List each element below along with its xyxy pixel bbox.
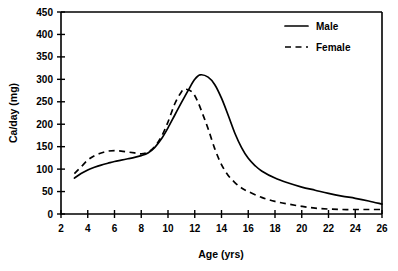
y-tick-label: 50	[42, 186, 54, 197]
y-tick-label: 250	[36, 96, 53, 107]
x-tick-label: 20	[296, 223, 308, 234]
y-tick-label: 150	[36, 141, 53, 152]
x-tick-label: 22	[323, 223, 335, 234]
y-tick-label: 0	[47, 209, 53, 220]
x-tick-label: 4	[85, 223, 91, 234]
chart-figure: 050100150200250300350400450 246810121416…	[0, 0, 398, 271]
y-tick-label: 450	[36, 7, 53, 18]
x-tick-label: 10	[162, 223, 174, 234]
x-axis-tick-labels: 2468101214161820222426	[58, 223, 388, 234]
y-tick-label: 100	[36, 164, 53, 175]
x-tick-label: 14	[216, 223, 228, 234]
x-tick-label: 2	[58, 223, 64, 234]
x-tick-label: 26	[376, 223, 388, 234]
x-tick-label: 8	[138, 223, 144, 234]
series-line-female	[74, 89, 382, 209]
x-tick-label: 18	[269, 223, 281, 234]
x-axis-title: Age (yrs)	[198, 248, 244, 260]
x-tick-label: 16	[243, 223, 255, 234]
chart-canvas: 050100150200250300350400450 246810121416…	[0, 0, 398, 271]
x-tick-label: 6	[112, 223, 118, 234]
x-tick-label: 12	[189, 223, 201, 234]
series-line-male	[74, 75, 382, 204]
y-tick-label: 300	[36, 74, 53, 85]
legend: Male Female	[285, 21, 351, 53]
x-tick-label: 24	[350, 223, 362, 234]
legend-label-male: Male	[316, 21, 339, 32]
y-tick-label: 350	[36, 51, 53, 62]
y-axis-tick-labels: 050100150200250300350400450	[36, 7, 53, 220]
y-tick-label: 200	[36, 119, 53, 130]
y-tick-label: 400	[36, 29, 53, 40]
legend-label-female: Female	[316, 42, 351, 53]
y-axis-title: Ca/day (mg)	[7, 83, 19, 143]
